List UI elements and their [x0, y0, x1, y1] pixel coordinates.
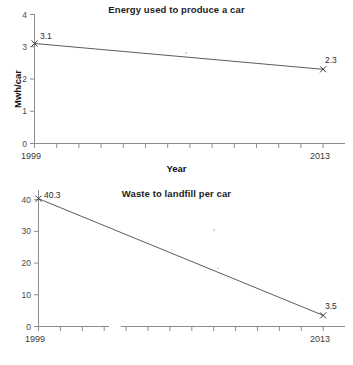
- scan-artifact-speck: [217, 267, 219, 269]
- x-tick-label-start: 1999: [21, 151, 41, 161]
- data-point-label-start: 3.1: [40, 31, 52, 41]
- data-series-line: [39, 199, 324, 316]
- data-point-marker-end: [320, 312, 326, 318]
- y-tick-label: 1: [22, 106, 27, 116]
- y-tick-label: 0: [26, 322, 31, 332]
- y-tick-label: 10: [22, 290, 32, 300]
- x-axis-ticks: [35, 144, 324, 149]
- y-tick-label: 4: [22, 10, 27, 20]
- energy-plot-area: 4 3 2 1 0 1999 2013: [0, 0, 353, 182]
- chart-waste-to-landfill-per-car: Waste to landfill per car kg/car 40 30 2…: [0, 182, 353, 365]
- x-tick-label-start: 1999: [25, 334, 45, 344]
- data-series-line: [35, 44, 324, 70]
- x-axis-label: Year: [0, 163, 353, 174]
- y-tick-label: 3: [22, 42, 27, 52]
- chart-energy-used-to-produce-a-car: Energy used to produce a car Mwh/car 4 3…: [0, 0, 353, 182]
- x-tick-label-end: 2013: [310, 151, 330, 161]
- data-point-label-end: 2.3: [325, 55, 337, 65]
- y-axis-ticks: [30, 15, 35, 144]
- y-tick-label: 30: [22, 226, 32, 236]
- data-point-label-start: 40.3: [44, 190, 61, 200]
- scan-artifact-speck: [185, 52, 187, 54]
- x-axis-ticks: [39, 327, 324, 332]
- scan-artifact-speck: [213, 229, 215, 231]
- y-tick-label: 20: [22, 258, 32, 268]
- x-tick-label-end: 2013: [310, 334, 330, 344]
- waste-plot-area: 40 30 20 10 0 1999 2013: [0, 182, 353, 365]
- y-tick-label: 40: [22, 195, 32, 205]
- y-axis-ticks: [34, 200, 39, 327]
- y-tick-label: 0: [22, 139, 27, 149]
- y-tick-label: 2: [22, 74, 27, 84]
- data-point-label-end: 3.5: [325, 301, 337, 311]
